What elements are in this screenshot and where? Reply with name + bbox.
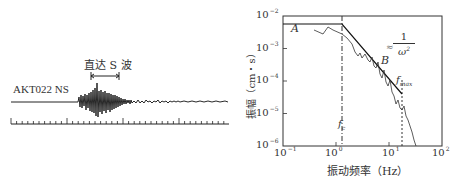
- fraction-denominator: ω2: [393, 45, 415, 57]
- x-tick-1e2: 102: [432, 147, 450, 158]
- x-axis-label: 振动频率（Hz）: [327, 162, 408, 178]
- y-tick-1e-2: 10−2: [256, 9, 279, 20]
- fraction-numerator: 1: [393, 31, 415, 42]
- label-fc: fc: [338, 118, 345, 131]
- omega-fraction: 1 ω2: [393, 31, 415, 57]
- y-tick-1e-5: 10−5: [256, 107, 279, 118]
- x-tick-1e-1: 10−1: [274, 147, 297, 158]
- y-tick-1e-4: 10−4: [256, 74, 279, 85]
- x-tick-1e0: 100: [325, 147, 343, 158]
- label-fmax: fmax: [396, 74, 412, 87]
- label-B: B: [381, 54, 389, 67]
- y-axis-label: 振幅（cm・s）: [243, 34, 258, 134]
- label-A: A: [291, 22, 299, 35]
- fraction-bar: [393, 43, 415, 44]
- y-tick-1e-3: 10−3: [256, 42, 279, 53]
- x-tick-1e1: 101: [382, 147, 400, 158]
